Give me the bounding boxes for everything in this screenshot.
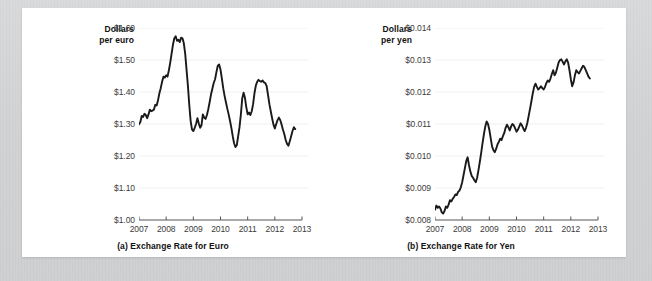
plot-area-euro xyxy=(139,28,302,220)
x-axis-tick-label: 2008 xyxy=(157,224,176,234)
y-axis-tick-label: $0.011 xyxy=(391,119,431,129)
y-axis-tick-label: $1.50 xyxy=(95,55,135,65)
y-axis-tick-label: $1.60 xyxy=(95,23,135,33)
figure-panel: Dollars per euro (a) Exchange Rate for E… xyxy=(22,8,626,257)
y-axis-tick-label: $1.10 xyxy=(95,183,135,193)
data-line-exchange-rate-yen xyxy=(435,59,590,213)
chart-caption-yen: (b) Exchange Rate for Yen xyxy=(310,241,612,251)
plot-svg xyxy=(435,28,606,228)
x-axis-tick-label: 2011 xyxy=(239,224,257,234)
chart-exchange-rate-euro: Dollars per euro (a) Exchange Rate for E… xyxy=(22,8,324,257)
x-axis-tick-label: 2008 xyxy=(453,224,472,234)
x-axis-tick-label: 2007 xyxy=(426,224,445,234)
y-axis-title-line2: per euro xyxy=(66,35,134,46)
y-axis-tick-label: $0.010 xyxy=(391,151,431,161)
y-axis-title-line2: per yen xyxy=(348,35,412,46)
chart-caption-euro: (a) Exchange Rate for Euro xyxy=(22,241,324,251)
x-axis-tick-label: 2013 xyxy=(589,224,608,234)
x-axis-tick-label: 2010 xyxy=(507,224,526,234)
x-axis-tick-label: 2009 xyxy=(184,224,203,234)
y-axis-tick-label: $0.009 xyxy=(391,183,431,193)
y-axis-tick-label: $1.40 xyxy=(95,87,135,97)
x-axis-tick-label: 2009 xyxy=(480,224,499,234)
y-axis-tick-label: $1.20 xyxy=(95,151,135,161)
x-axis-tick-label: 2012 xyxy=(266,224,285,234)
y-axis-tick-label: $0.012 xyxy=(391,87,431,97)
chart-exchange-rate-yen: Dollars per yen (b) Exchange Rate for Ye… xyxy=(310,8,612,257)
plot-area-yen xyxy=(435,28,598,220)
x-axis-tick-label: 2013 xyxy=(293,224,312,234)
y-axis-tick-label: $0.013 xyxy=(391,55,431,65)
plot-svg xyxy=(139,28,310,228)
x-axis-tick-label: 2010 xyxy=(211,224,230,234)
x-axis-tick-label: 2011 xyxy=(535,224,553,234)
x-axis-tick-label: 2007 xyxy=(130,224,149,234)
x-axis-tick-label: 2012 xyxy=(562,224,581,234)
y-axis-tick-label: $1.30 xyxy=(95,119,135,129)
y-axis-tick-label: $0.014 xyxy=(391,23,431,33)
